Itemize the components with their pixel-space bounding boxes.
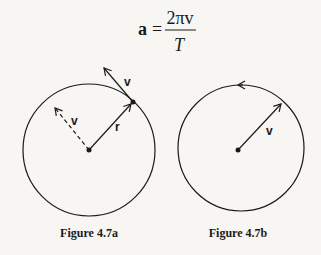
equation-lhs: a [138,19,147,39]
equation-numerator: 2πv [166,8,193,28]
diagram-canvas: a = 2πv T v v r Figure 4.7a v Figure 4.7… [0,0,321,255]
equation-denominator: T [174,35,186,55]
equation-equals: = [152,19,162,39]
velocity-label: v [124,75,131,89]
figure-a-caption: Figure 4.7a [60,226,118,240]
figure-b-caption: Figure 4.7b [209,226,268,240]
radius-label: r [115,120,120,134]
figure-4-7b: v Figure 4.7b [178,85,304,240]
equation: a = 2πv T [138,8,196,55]
velocity-label: v [266,124,273,138]
radius-vector [89,104,131,150]
circular-path [178,85,304,211]
velocity-vector [238,104,281,150]
dashed-velocity-label: v [71,114,78,128]
figure-4-7a: v v r Figure 4.7a [23,68,155,240]
